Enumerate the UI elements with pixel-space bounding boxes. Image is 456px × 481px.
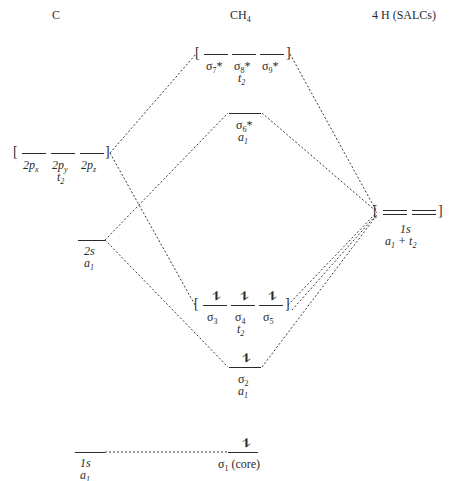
- electron-pair-sigma3: ⥮: [205, 290, 225, 302]
- orbital-level-2py: [51, 153, 75, 154]
- symmetry-a1-carbon-2s: a1: [84, 257, 94, 269]
- label-sigma5: σ5: [263, 311, 273, 323]
- orbital-level-salc-1: [383, 210, 407, 211]
- orbital-level-salc-3: [412, 210, 436, 211]
- orbital-level-sigma1: [228, 452, 258, 453]
- orbital-level-sigma7: [204, 54, 228, 55]
- label-2px: 2px: [23, 159, 39, 171]
- orbital-level-2px: [22, 153, 46, 154]
- electron-pair-sigma5: ⥮: [261, 290, 281, 302]
- orbital-level-sigma5: [259, 305, 283, 306]
- header-hydrogen-salcs: 4 H (SALCs): [372, 9, 436, 21]
- header-carbon: C: [52, 9, 60, 21]
- bracket-close: ]: [438, 204, 443, 218]
- orbital-level-sigma6: [229, 113, 261, 114]
- bracket-open: [: [194, 297, 199, 311]
- bracket-close: ]: [105, 145, 110, 159]
- label-sigma3: σ3: [207, 311, 217, 323]
- label-sigma8: σ8*: [234, 60, 250, 72]
- orbital-level-sigma2: [229, 367, 261, 368]
- label-sigma1-core: σ1 (core): [218, 458, 260, 470]
- orbital-level-1s: [75, 452, 105, 453]
- bracket-open: [: [13, 145, 18, 159]
- label-sigma9: σ9*: [262, 60, 278, 72]
- label-sigma7: σ7*: [206, 60, 222, 72]
- bracket-close: ]: [286, 46, 291, 60]
- orbital-level-salc-2: [383, 214, 407, 215]
- orbital-level-2s: [78, 240, 105, 241]
- electron-pair-sigma4: ⥮: [233, 290, 253, 302]
- orbital-level-sigma3: [203, 305, 227, 306]
- symmetry-a1-bonding: a1: [238, 385, 248, 397]
- orbital-level-sigma9: [260, 54, 284, 55]
- symmetry-a1-carbon-1s: a1: [80, 469, 90, 481]
- symmetry-t2-antibonding: t2: [238, 72, 245, 84]
- symmetry-a1-antibonding: a1: [238, 131, 248, 143]
- symmetry-a1-t2: a1 + t2: [385, 235, 416, 247]
- label-2pz: 2pz: [81, 159, 96, 171]
- symmetry-t2-carbon: t2: [57, 171, 64, 183]
- orbital-level-sigma4: [231, 305, 255, 306]
- orbital-level-2pz: [80, 153, 104, 154]
- electron-pair-sigma1: ⥮: [235, 437, 255, 449]
- header-ch4: CH4: [230, 9, 251, 21]
- symmetry-t2-bonding: t2: [237, 323, 244, 335]
- bracket-open: [: [195, 46, 200, 60]
- bracket-open: [: [373, 204, 378, 218]
- orbital-level-salc-4: [412, 214, 436, 215]
- bracket-close: ]: [285, 297, 290, 311]
- electron-pair-sigma2: ⥮: [235, 352, 255, 364]
- orbital-level-sigma8: [232, 54, 256, 55]
